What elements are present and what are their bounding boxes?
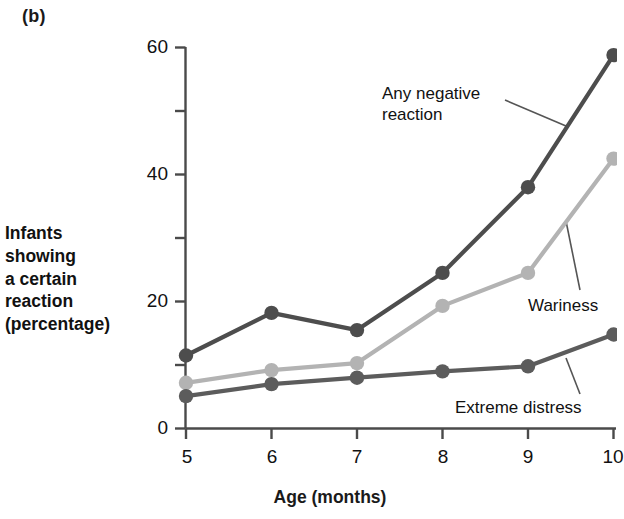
leader-line-extreme-distress (566, 358, 580, 394)
data-point (521, 266, 535, 280)
data-point (435, 266, 449, 280)
data-point (435, 364, 449, 378)
data-point (350, 356, 364, 370)
data-point (521, 180, 535, 194)
data-point (264, 306, 278, 320)
data-point (350, 371, 364, 385)
data-point (179, 376, 193, 390)
data-point (179, 389, 193, 403)
series-extreme-distress (179, 327, 617, 403)
series-any-negative-reaction (179, 48, 617, 363)
series-line (186, 159, 614, 383)
data-point (521, 359, 535, 373)
x-axis-ticks (186, 429, 614, 440)
series-line (186, 335, 614, 397)
data-point (264, 377, 278, 391)
leader-line-wariness (566, 221, 580, 290)
y-axis-ticks (175, 48, 186, 429)
data-point (179, 348, 193, 362)
data-point (350, 323, 364, 337)
data-point (606, 327, 617, 341)
series-wariness (179, 151, 617, 390)
leader-line-any-negative-reaction (505, 100, 566, 126)
series-line (186, 55, 614, 355)
data-point (435, 299, 449, 313)
data-point (264, 363, 278, 377)
series-layer (179, 48, 617, 403)
